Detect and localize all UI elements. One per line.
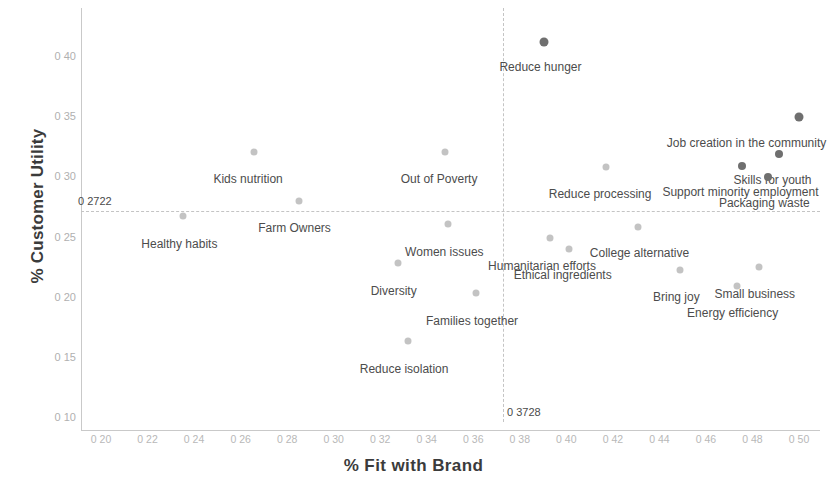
x-tick-label: 0 22 (137, 433, 157, 445)
data-point-label: Job creation in the community (667, 136, 826, 150)
x-tick-label: 0 30 (323, 433, 343, 445)
x-axis-title: % Fit with Brand (0, 456, 827, 476)
data-point-label: College alternative (590, 246, 689, 260)
data-point (442, 148, 449, 155)
x-tick-label: 0 26 (230, 433, 250, 445)
data-point-label: Packaging waste (719, 196, 810, 210)
x-tick-label: 0 44 (649, 433, 669, 445)
data-point-label: Reduce hunger (499, 60, 581, 74)
data-point-label: Ethical ingredients (514, 268, 612, 282)
y-axis-tick-labels: 0 400 350 300 250 200 150 10 (0, 0, 76, 484)
data-point-label: Bring joy (653, 290, 700, 304)
data-point-label: Small business (714, 287, 795, 301)
x-tick-label: 0 24 (184, 433, 204, 445)
data-point (677, 266, 684, 273)
x-tick-label: 0 48 (742, 433, 762, 445)
data-point (634, 224, 641, 231)
data-point (565, 246, 572, 253)
data-point-label: Families together (426, 314, 518, 328)
data-point-label: Reduce processing (549, 187, 652, 201)
data-point (445, 220, 452, 227)
data-point (764, 173, 772, 181)
y-tick-label: 0 10 (55, 411, 76, 423)
data-point (394, 259, 401, 266)
data-point-label: Kids nutrition (213, 172, 282, 186)
plot-area: Reduce hungerJob creation in the communi… (81, 8, 820, 431)
data-point (540, 37, 549, 46)
data-point-label: Women issues (405, 245, 483, 259)
data-point (775, 150, 783, 158)
y-tick-label: 0 20 (55, 291, 76, 303)
x-tick-label: 0 40 (556, 433, 576, 445)
x-tick-label: 0 34 (417, 433, 437, 445)
data-point (251, 148, 258, 155)
data-point (547, 235, 554, 242)
scatter-chart: % Customer Utility % Fit with Brand 0 40… (0, 0, 827, 484)
y-tick-label: 0 35 (55, 110, 76, 122)
data-point (603, 164, 610, 171)
x-tick-label: 0 42 (603, 433, 623, 445)
x-tick-label: 0 50 (789, 433, 809, 445)
data-point (405, 337, 412, 344)
data-point (180, 212, 187, 219)
x-tick-label: 0 36 (463, 433, 483, 445)
data-point (755, 263, 762, 270)
x-tick-label: 0 32 (370, 433, 390, 445)
data-point (733, 282, 740, 289)
data-point (473, 289, 480, 296)
data-point (794, 112, 803, 121)
data-point (295, 198, 302, 205)
y-tick-label: 0 25 (55, 231, 76, 243)
x-tick-label: 0 20 (91, 433, 111, 445)
x-tick-label: 0 28 (277, 433, 297, 445)
x-tick-label: 0 38 (510, 433, 530, 445)
x-tick-label: 0 46 (696, 433, 716, 445)
y-tick-label: 0 30 (55, 170, 76, 182)
data-point-label: Out of Poverty (401, 172, 478, 186)
data-point-label: Healthy habits (141, 237, 217, 251)
data-point (738, 162, 746, 170)
data-point-label: Energy efficiency (687, 306, 778, 320)
data-point-label: Farm Owners (258, 221, 331, 235)
data-point-label: Reduce isolation (360, 362, 449, 376)
y-tick-label: 0 15 (55, 351, 76, 363)
data-point-label: Diversity (371, 284, 417, 298)
y-tick-label: 0 40 (55, 50, 76, 62)
